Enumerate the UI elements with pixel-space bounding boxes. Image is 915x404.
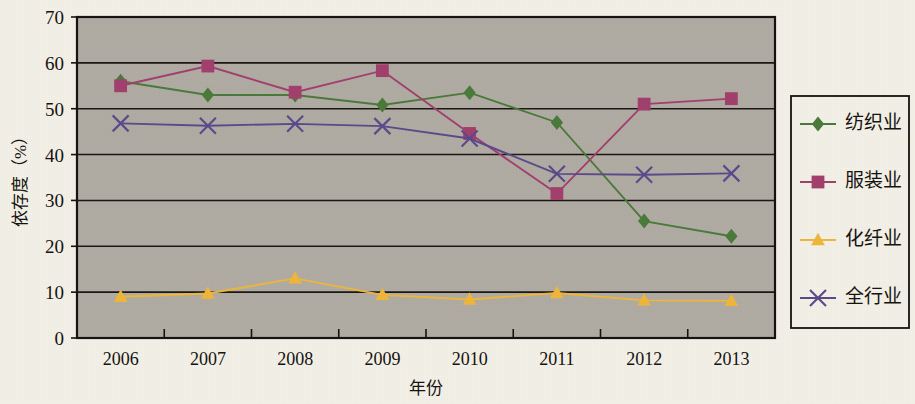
line-chart: 010203040506070 200620072008200920102011… — [0, 0, 915, 404]
y-axis-title: 依存度（%） — [11, 128, 30, 227]
data-point-marker — [638, 98, 651, 111]
y-axis-tick-label: 10 — [45, 282, 64, 303]
data-point-marker — [376, 64, 389, 77]
legend-label: 化纤业 — [845, 228, 902, 249]
y-axis-tick-label: 40 — [45, 145, 64, 166]
x-axis-title: 年份 — [409, 379, 443, 398]
y-axis-tick-label: 20 — [45, 236, 64, 257]
x-axis-tick-label: 2010 — [452, 349, 488, 369]
x-axis-tick-label: 2008 — [277, 349, 313, 369]
plot-area-background — [77, 17, 775, 338]
data-point-marker — [812, 176, 825, 189]
legend-label: 纺织业 — [845, 112, 902, 133]
y-axis-tick-label: 0 — [55, 328, 65, 349]
data-point-marker — [725, 92, 738, 105]
data-point-marker — [114, 79, 127, 92]
x-axis-tick-label: 2007 — [190, 349, 226, 369]
data-point-marker — [550, 187, 563, 200]
y-axis-tick-label: 60 — [45, 53, 64, 74]
y-axis-ticks: 010203040506070 — [45, 7, 77, 349]
chart-figure: 010203040506070 200620072008200920102011… — [0, 0, 915, 404]
x-axis-tick-label: 2009 — [364, 349, 400, 369]
legend-label: 全行业 — [845, 286, 902, 307]
x-axis-tick-label: 2011 — [539, 349, 574, 369]
y-axis-tick-label: 50 — [45, 99, 64, 120]
x-axis-tick-label: 2006 — [103, 349, 139, 369]
data-point-marker — [201, 60, 214, 73]
chart-legend: 纺织业服装业化纤业全行业 — [791, 96, 909, 328]
legend-label: 服装业 — [845, 170, 902, 191]
data-point-marker — [289, 86, 302, 99]
x-axis-tick-label: 2012 — [626, 349, 662, 369]
x-axis-tick-label: 2013 — [713, 349, 749, 369]
y-axis-tick-label: 70 — [45, 7, 64, 28]
y-axis-tick-label: 30 — [45, 190, 64, 211]
